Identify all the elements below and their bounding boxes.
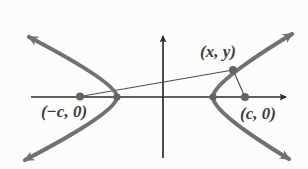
left-focus-label: (−c, 0)	[41, 102, 87, 121]
segment-left-focus-to-point	[80, 70, 233, 97]
point-on-curve-dot	[229, 66, 237, 74]
diagram-canvas: (−c, 0) (c, 0) (x, y)	[0, 0, 308, 169]
left-vertex-dot	[113, 93, 120, 100]
right-focus-label: (c, 0)	[240, 104, 276, 123]
left-focus-dot	[76, 93, 84, 101]
hyperbola-foci-diagram: (−c, 0) (c, 0) (x, y)	[0, 0, 308, 169]
point-label: (x, y)	[200, 42, 236, 61]
right-focus-dot	[241, 93, 249, 101]
left-branch-curve	[25, 37, 117, 160]
right-vertex-dot	[209, 93, 216, 100]
